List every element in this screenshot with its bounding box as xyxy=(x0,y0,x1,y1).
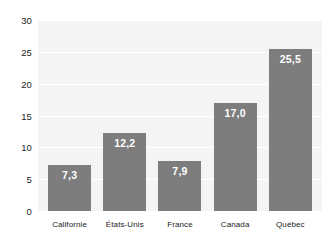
y-axis-tick-label: 15 xyxy=(21,110,32,121)
bars-layer: 7,312,27,917,025,5 xyxy=(38,20,322,211)
bar[interactable]: 12,2 xyxy=(103,133,146,211)
x-axis-tick-slot: Québec xyxy=(269,213,312,235)
y-axis-tick-label: 0 xyxy=(27,206,32,217)
y-axis-tick-label: 30 xyxy=(21,15,32,26)
y-axis-tick-label: 20 xyxy=(21,78,32,89)
x-axis-tick-label: Californie xyxy=(52,220,87,229)
bar-value-label: 7,9 xyxy=(158,165,201,177)
x-axis-tick-slot: Californie xyxy=(48,213,91,235)
y-axis-tick-label: 10 xyxy=(21,142,32,153)
plot-area: 7,312,27,917,025,5 xyxy=(38,20,322,211)
bar-value-label: 7,3 xyxy=(48,169,91,181)
x-axis-tick-label: Canada xyxy=(221,220,250,229)
x-axis: CalifornieÉtats-UnisFranceCanadaQuébec xyxy=(38,213,322,235)
bar-slot: 7,3 xyxy=(48,20,91,211)
bar[interactable]: 17,0 xyxy=(214,103,257,211)
bar-value-label: 17,0 xyxy=(214,107,257,119)
bar-slot: 12,2 xyxy=(103,20,146,211)
bar[interactable]: 7,9 xyxy=(158,161,201,211)
bar-value-label: 25,5 xyxy=(269,53,312,65)
x-axis-tick-label: Québec xyxy=(276,220,305,229)
y-axis-tick-label: 25 xyxy=(21,46,32,57)
x-axis-tick-slot: États-Unis xyxy=(103,213,146,235)
bar-slot: 7,9 xyxy=(158,20,201,211)
bar-value-label: 12,2 xyxy=(103,137,146,149)
bar[interactable]: 7,3 xyxy=(48,165,91,211)
x-axis-tick-slot: France xyxy=(158,213,201,235)
bar-slot: 25,5 xyxy=(269,20,312,211)
x-axis-tick-label: France xyxy=(167,220,193,229)
bar-slot: 17,0 xyxy=(214,20,257,211)
x-axis-tick-slot: Canada xyxy=(214,213,257,235)
x-axis-tick-label: États-Unis xyxy=(106,220,144,229)
bar-chart: 051015202530 7,312,27,917,025,5 Californ… xyxy=(0,0,335,242)
bar[interactable]: 25,5 xyxy=(269,49,312,211)
y-axis: 051015202530 xyxy=(0,0,38,242)
y-axis-tick-label: 5 xyxy=(27,174,32,185)
